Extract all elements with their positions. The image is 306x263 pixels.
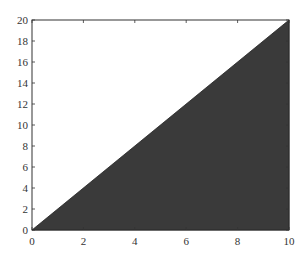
x-tick-label: 6 [183,235,189,247]
y-tick-label: 20 [17,14,29,26]
y-tick-label: 0 [23,224,29,236]
y-tick-label: 12 [17,98,28,110]
chart: 0246810 02468101214161820 [0,0,306,263]
y-tick-label: 2 [23,203,29,215]
plot-area [32,20,289,230]
y-tick-label: 16 [17,56,29,68]
y-tick-label: 18 [17,35,29,47]
y-tick-label: 14 [17,77,29,89]
x-tick-label: 4 [132,235,138,247]
area-series [32,20,289,230]
x-tick-label: 10 [284,235,296,247]
x-tick-label: 8 [235,235,241,247]
y-tick-label: 10 [17,119,29,131]
y-tick-label: 8 [23,140,29,152]
y-tick-label: 4 [23,182,29,194]
y-tick-label: 6 [23,161,29,173]
x-tick-label: 0 [29,235,35,247]
x-tick-label: 2 [81,235,87,247]
